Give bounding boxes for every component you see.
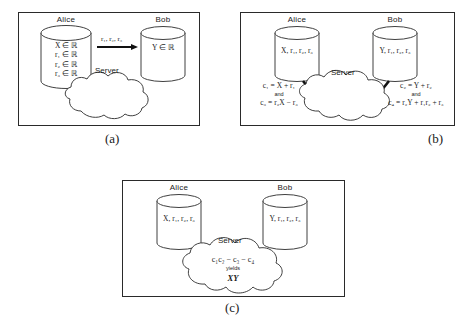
bob-equation-c4: c₄ = r₂Y + r₁r₂ + r₃	[377, 98, 455, 107]
server-label: Server	[218, 236, 242, 245]
bob-content-line: Y, r₁, r₂, r₃	[259, 214, 311, 223]
alice-content-line: r₂ ∈ ℝ	[41, 60, 91, 69]
alice-label: Alice	[288, 15, 306, 24]
server-cloud-shape	[65, 72, 148, 118]
panel-b: Alice X, r₁, r₂, r₃ Bob Y, r₁, r₂, r₃ Se…	[240, 12, 455, 126]
bob-content-line: Y, r₁, r₂, r₃	[369, 46, 421, 55]
server-equation-result: XY	[183, 273, 283, 283]
bob-cylinder-shape	[263, 195, 307, 250]
alice-content-line: X, r₁, r₂, r₃	[153, 214, 205, 223]
server-computation: c₁c₂ − c₃ − c₄ yields XY	[183, 255, 283, 283]
bob-cylinder-shape	[141, 27, 185, 82]
bob-cylinder-contents: Y ∈ ℝ	[141, 43, 185, 52]
server-label: Server	[95, 66, 119, 75]
alice-cylinder-contents: X ∈ ℝ r₁ ∈ ℝ r₂ ∈ ℝ r₃ ∈ ℝ	[41, 41, 91, 79]
bob-label: Bob	[278, 183, 293, 192]
alice-equation-c1: c₁ = X + r₁	[243, 81, 315, 90]
bob-cylinder-contents: Y, r₁, r₂, r₃	[259, 214, 311, 223]
bob-cylinder-shape	[373, 27, 417, 82]
server-equation-expression: c₁c₂ − c₃ − c₄	[212, 255, 254, 264]
alice-content-line: r₃ ∈ ℝ	[41, 69, 91, 78]
alice-label: Alice	[57, 15, 75, 24]
bob-content-line: Y ∈ ℝ	[141, 43, 185, 52]
alice-cylinder-shape	[275, 27, 319, 82]
figure-root: Alice X ∈ ℝ r₁ ∈ ℝ r₂ ∈ ℝ r₃ ∈ ℝ Bob Y ∈…	[0, 0, 470, 316]
alice-cylinder-contents: X, r₁, r₂, r₃	[153, 214, 205, 223]
panel-c: Alice X, r₁, r₂, r₃ Bob Y, r₁, r₂, r₃ Se…	[122, 180, 345, 297]
bob-cylinder-contents: Y, r₁, r₂, r₃	[369, 46, 421, 55]
alice-content-line: r₁ ∈ ℝ	[41, 50, 91, 59]
server-equation-connector: yields	[183, 264, 283, 273]
bob-label: Bob	[388, 15, 403, 24]
alice-cylinder-shape	[157, 195, 201, 250]
panel-c-caption: (c)	[225, 300, 239, 316]
server-label: Server	[331, 68, 355, 77]
alice-equation-c3: c₃ = r₂X − r₃	[243, 98, 315, 107]
alice-label: Alice	[170, 183, 188, 192]
transfer-arrow-label: r₁, r₂, r₃	[101, 35, 122, 43]
alice-cylinder-shape	[41, 26, 91, 89]
panel-a-caption: (a)	[105, 131, 119, 147]
panel-b-caption: (b)	[428, 131, 443, 147]
alice-content-line: X ∈ ℝ	[41, 41, 91, 50]
alice-equations: c₁ = X + r₁ and c₃ = r₂X − r₃	[243, 81, 315, 107]
alice-equation-connector: and	[243, 90, 315, 98]
alice-cylinder-contents: X, r₁, r₂, r₃	[271, 46, 323, 55]
bob-equations: c₂ = Y + r₂ and c₄ = r₂Y + r₁r₂ + r₃	[377, 81, 455, 107]
bob-equation-c2: c₂ = Y + r₂	[377, 81, 455, 90]
transfer-arrow	[97, 44, 138, 50]
bob-label: Bob	[156, 15, 171, 24]
bob-equation-connector: and	[377, 90, 455, 98]
alice-content-line: X, r₁, r₂, r₃	[271, 46, 323, 55]
panel-a: Alice X ∈ ℝ r₁ ∈ ℝ r₂ ∈ ℝ r₃ ∈ ℝ Bob Y ∈…	[18, 12, 200, 126]
